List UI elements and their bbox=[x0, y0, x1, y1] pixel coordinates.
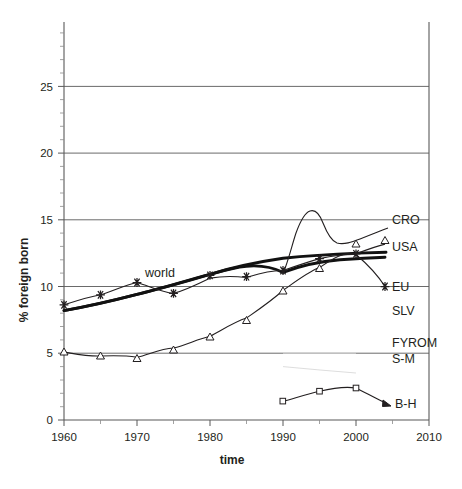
ytick-10: 10 bbox=[40, 281, 53, 293]
series-label-sm: S-M bbox=[392, 352, 415, 366]
series-label-bh: B-H bbox=[395, 397, 417, 411]
series-fyrom bbox=[283, 367, 356, 373]
series-label-fyrom: FYROM bbox=[392, 336, 437, 350]
ytick-25: 25 bbox=[40, 81, 53, 93]
xtick-2000: 2000 bbox=[343, 431, 369, 443]
xtick-2010: 2010 bbox=[416, 431, 442, 443]
x-tick-labels: 1960 1970 1980 1990 2000 2010 bbox=[51, 431, 442, 443]
ytick-15: 15 bbox=[40, 214, 53, 226]
x-axis-title: time bbox=[220, 453, 245, 467]
axes bbox=[64, 22, 429, 420]
xtick-1970: 1970 bbox=[124, 431, 150, 443]
y-axis-title: % foreign born bbox=[17, 238, 31, 323]
series-world bbox=[64, 257, 385, 310]
y-tick-labels: 0 5 10 15 20 25 bbox=[40, 81, 53, 426]
series-label-usa: USA bbox=[392, 240, 418, 254]
series-labels: CRO USA EU SLV FYROM S-M B-H bbox=[392, 213, 437, 411]
ytick-5: 5 bbox=[47, 347, 53, 359]
chart-canvas: 0 5 10 15 20 25 1960 1970 1980 1990 2000… bbox=[0, 0, 462, 489]
y-major-ticks bbox=[58, 86, 64, 420]
ytick-20: 20 bbox=[40, 147, 53, 159]
series-label-slv: SLV bbox=[392, 304, 415, 318]
series-bh bbox=[280, 385, 391, 406]
gridlines bbox=[64, 86, 429, 353]
ytick-0: 0 bbox=[47, 414, 53, 426]
series-label-cro: CRO bbox=[392, 213, 420, 227]
xtick-1990: 1990 bbox=[270, 431, 296, 443]
xtick-1960: 1960 bbox=[51, 431, 77, 443]
chart-figure: 0 5 10 15 20 25 1960 1970 1980 1990 2000… bbox=[0, 0, 462, 489]
x-ticks bbox=[64, 420, 429, 426]
xtick-1980: 1980 bbox=[197, 431, 223, 443]
series-label-eu: EU bbox=[392, 280, 409, 294]
annotation-world: world bbox=[144, 266, 175, 280]
bh-arrow-icon bbox=[383, 400, 392, 407]
